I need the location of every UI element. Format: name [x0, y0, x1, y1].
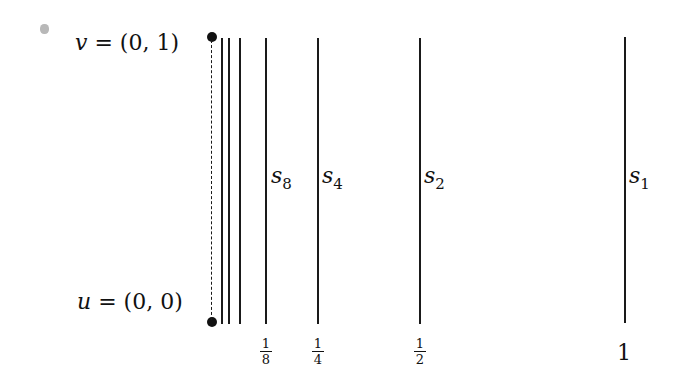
segment-label-s4-sub: 4	[333, 175, 343, 193]
segment-label-s4: s4	[322, 163, 343, 188]
segment-label-s8-name: s	[271, 163, 282, 188]
segment-label-s2-sub: 2	[435, 175, 445, 193]
segment-s32	[228, 38, 230, 324]
label-v-eq: =	[87, 30, 119, 55]
segment-label-s1: s1	[629, 163, 650, 188]
label-v-value: (0, 1)	[120, 30, 179, 55]
limit-segment-dashed	[211, 40, 212, 320]
tick-label-one-eighth: 1 8	[258, 337, 274, 366]
label-v-var: v	[75, 30, 87, 55]
segment-s2	[419, 38, 421, 324]
segment-label-s8-sub: 8	[282, 175, 292, 193]
label-u: u = (0, 0)	[77, 289, 183, 314]
tick-label-one-quarter: 1 4	[310, 337, 326, 366]
tick-one-half-den: 2	[416, 352, 424, 367]
segment-label-s2: s2	[424, 163, 445, 188]
scan-artifact-speck	[40, 24, 49, 34]
tick-one-quarter-den: 4	[314, 352, 322, 367]
segment-label-s2-name: s	[424, 163, 435, 188]
segment-label-s1-sub: 1	[640, 175, 650, 193]
label-u-var: u	[77, 289, 91, 314]
segment-label-s1-name: s	[629, 163, 640, 188]
point-u	[207, 317, 217, 327]
label-u-value: (0, 0)	[124, 289, 183, 314]
label-u-eq: =	[91, 289, 123, 314]
segment-label-s8: s8	[271, 163, 292, 188]
point-v	[207, 32, 217, 42]
tick-one-half-num: 1	[416, 336, 424, 351]
tick-one-eighth-num: 1	[262, 336, 270, 351]
tick-one-quarter-num: 1	[314, 336, 322, 351]
segment-s16	[239, 38, 241, 324]
tick-label-one-half: 1 2	[412, 337, 428, 366]
tick-one-eighth-den: 8	[262, 352, 270, 367]
segment-s8	[265, 38, 267, 324]
segment-label-s4-name: s	[322, 163, 333, 188]
label-v: v = (0, 1)	[75, 30, 179, 55]
segment-s64	[221, 38, 223, 324]
tick-label-one: 1	[617, 340, 631, 365]
segment-s4	[317, 38, 319, 324]
segment-s1	[624, 37, 626, 323]
